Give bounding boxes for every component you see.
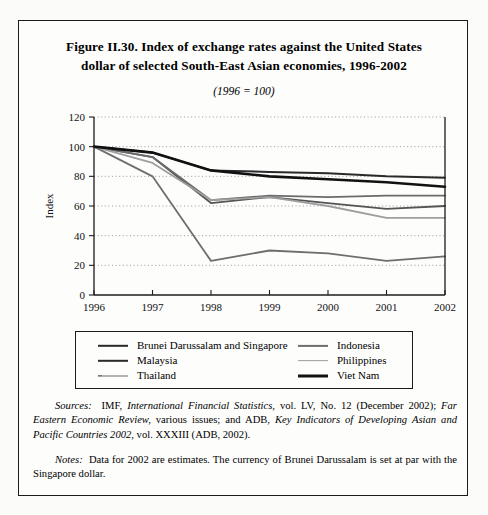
legend-swatch-icon [298, 341, 328, 351]
legend-item-label: Malaysia [137, 354, 177, 367]
legend-swatch-icon [98, 341, 128, 351]
x-tick-label: 1999 [259, 301, 282, 313]
series-line [94, 147, 445, 187]
legend-item: Indonesia [298, 338, 410, 353]
sources-text-4: vol. XXXIII (ADB, 2002). [137, 429, 251, 440]
notes-note: Notes: Data for 2002 are estimates. The … [33, 453, 457, 482]
legend-column-left: Brunei Darussalam and SingaporeMalaysiaT… [98, 338, 298, 383]
legend-item: Malaysia [98, 353, 298, 368]
y-axis-labels: 020406080100120 [69, 111, 86, 301]
title-line-1: Figure II.30. Index of exchange rates ag… [33, 37, 455, 56]
sources-label: Sources: [55, 400, 92, 411]
chart-svg: 020406080100120 199619971998199920002001… [19, 103, 469, 328]
sources-text-3: various issues; and ADB, [156, 414, 270, 425]
legend-item-label: Brunei Darussalam and Singapore [137, 339, 288, 352]
legend-item-label: Thailand [137, 369, 176, 382]
figure-page: Figure II.30. Index of exchange rates ag… [0, 0, 488, 515]
legend-column-right: IndonesiaPhilippinesViet Nam [298, 338, 410, 383]
figure-subtitle: (1996 = 100) [33, 85, 455, 97]
legend-swatch-icon [298, 356, 328, 366]
y-tick-label: 100 [69, 141, 86, 153]
series-lines [94, 147, 445, 261]
legend-swatch-icon [298, 371, 328, 381]
legend-item: Viet Nam [298, 368, 410, 383]
axes [94, 117, 445, 295]
x-tick-label: 1998 [200, 301, 223, 313]
x-tick-label: 2001 [376, 301, 398, 313]
legend-item-label: Viet Nam [337, 369, 379, 382]
figure-frame: Figure II.30. Index of exchange rates ag… [18, 20, 468, 496]
figure-title: Figure II.30. Index of exchange rates ag… [33, 37, 455, 75]
x-tick-label: 2002 [434, 301, 456, 313]
legend-swatch-icon [98, 356, 128, 366]
y-tick-label: 60 [74, 200, 86, 212]
title-line-2: dollar of selected South-East Asian econ… [33, 56, 455, 75]
series-line [94, 147, 445, 261]
legend-item-label: Philippines [337, 354, 387, 367]
x-tick-label: 1996 [83, 301, 106, 313]
x-axis-labels: 1996199719981999200020012002 [83, 301, 456, 313]
x-axis-ticks [94, 290, 445, 295]
legend-item: Brunei Darussalam and Singapore [98, 338, 298, 353]
y-tick-label: 0 [80, 289, 86, 301]
chart-legend: Brunei Darussalam and SingaporeMalaysiaT… [75, 331, 413, 389]
legend-item: Thailand [98, 368, 298, 383]
sources-text-1: IMF, [102, 400, 123, 411]
y-axis-ticks [89, 117, 94, 295]
notes-text: Data for 2002 are estimates. The currenc… [33, 454, 457, 479]
sources-text-2: vol. LV, No. 12 (December 2002); [280, 400, 436, 411]
legend-item-label: Indonesia [337, 339, 380, 352]
line-chart: 020406080100120 199619971998199920002001… [19, 103, 469, 328]
legend-swatch-icon [98, 371, 128, 381]
x-tick-label: 2000 [317, 301, 340, 313]
y-tick-label: 80 [74, 170, 86, 182]
y-tick-label: 40 [74, 230, 86, 242]
y-axis-title: Index [43, 193, 55, 219]
sources-note: Sources: IMF, International Financial St… [33, 399, 457, 442]
legend-item: Philippines [298, 353, 410, 368]
y-tick-label: 120 [69, 111, 86, 123]
y-tick-label: 20 [74, 259, 86, 271]
notes-label: Notes: [55, 454, 83, 465]
x-tick-label: 1997 [142, 301, 165, 313]
sources-italic-1: International Financial Statistics, [127, 400, 275, 411]
gridlines [94, 117, 445, 265]
